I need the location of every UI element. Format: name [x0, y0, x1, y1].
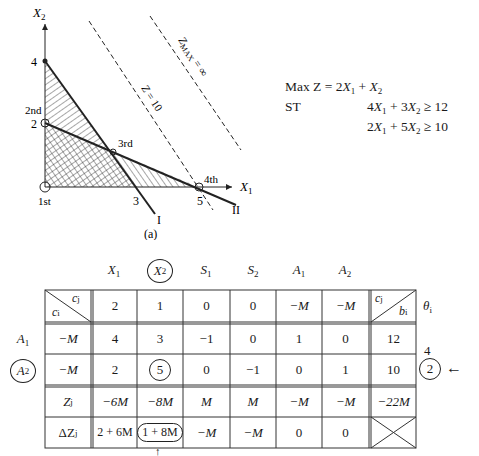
corner-ci: ci — [52, 305, 60, 320]
a2-b: 10 — [371, 354, 416, 385]
a1-a1: 1 — [276, 324, 322, 354]
cj-s1: 0 — [183, 290, 230, 322]
leaving-arrow: ← — [446, 359, 462, 377]
a2-a2: 1 — [322, 354, 369, 385]
a1-s1: −1 — [183, 324, 230, 354]
col-header-a1: A1 — [276, 262, 322, 278]
a1-theta: 4 — [424, 343, 431, 359]
entering-arrow: ↑ — [155, 446, 161, 456]
a1-s2: 0 — [230, 324, 276, 354]
dzj-a1: 0 — [276, 417, 322, 448]
a1-b: 12 — [371, 324, 416, 354]
ci-a2: −M — [45, 354, 91, 385]
dzj-label: ΔZj — [45, 417, 91, 448]
zj-s2: M — [230, 387, 276, 417]
zj-a2: −M — [322, 387, 369, 417]
cj-s2: 0 — [230, 290, 276, 322]
zj-label: Zj — [45, 387, 91, 417]
dzj-x1: 2 + 6M — [93, 417, 137, 448]
a2-s1: 0 — [183, 354, 230, 385]
rhs-corner-bi: bi — [399, 304, 408, 319]
a2-theta-min: 2 — [419, 358, 441, 380]
cj-x1: 2 — [93, 290, 137, 322]
cj-a2: −M — [322, 290, 369, 322]
zj-x2: −8M — [137, 387, 183, 417]
col-header-s2: S2 — [230, 262, 276, 278]
basis-a1: A1 — [4, 331, 42, 347]
corner-cj: cj — [72, 291, 80, 306]
basis-a2-leaving: A2 — [4, 359, 42, 383]
cj-x2: 1 — [137, 290, 183, 322]
a1-x1: 4 — [93, 324, 137, 354]
a2-a1: 0 — [276, 354, 322, 385]
col-header-s1: S1 — [183, 262, 229, 278]
a1-a2: 0 — [322, 324, 369, 354]
zj-b: −22M — [371, 387, 416, 417]
a2-s2: −1 — [230, 354, 276, 385]
col-header-x2-entering: X2 — [137, 259, 183, 283]
ci-a1: −M — [45, 324, 91, 354]
dzj-x2-max: 1 + 8M — [137, 417, 183, 448]
theta-header: θi — [423, 298, 432, 314]
rhs-corner-cj: cj — [375, 291, 383, 306]
a1-x2: 3 — [137, 324, 183, 354]
a2-x1: 2 — [93, 354, 137, 385]
dzj-s2: −M — [230, 417, 276, 448]
zj-x1: −6M — [93, 387, 137, 417]
dzj-a2: 0 — [322, 417, 369, 448]
a2-x2-pivot: 5 — [137, 354, 183, 385]
zj-a1: −M — [276, 387, 322, 417]
col-header-x1: X1 — [91, 262, 137, 278]
zj-s1: M — [183, 387, 230, 417]
col-header-a2: A2 — [322, 262, 368, 278]
dzj-s1: −M — [183, 417, 230, 448]
cj-a1: −M — [276, 290, 322, 322]
